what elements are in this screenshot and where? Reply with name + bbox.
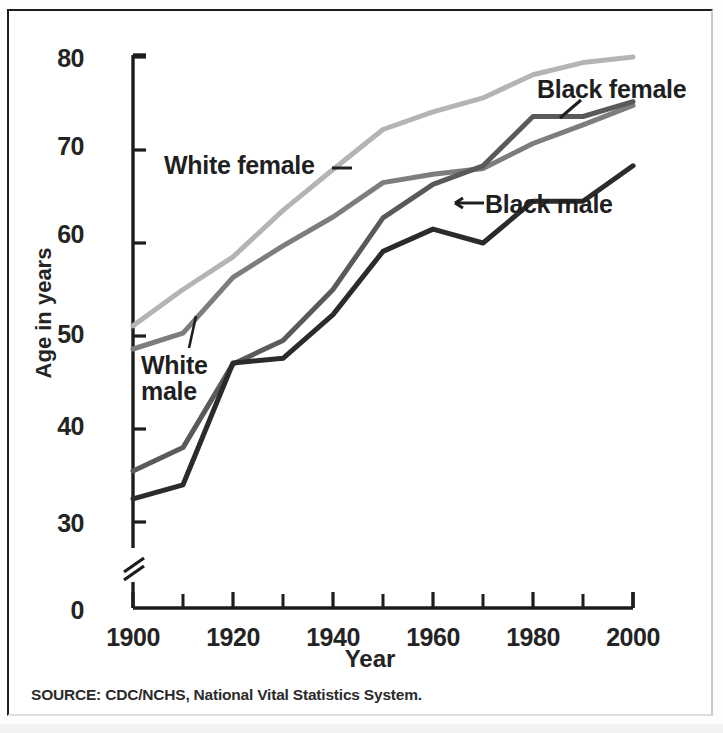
y-tick-label-40: 40	[42, 412, 84, 441]
series-label-black-male: Black male	[485, 190, 613, 219]
series-label-white-male-line1: White	[141, 351, 208, 379]
axes-layer	[124, 55, 633, 608]
x-tick-label-1920: 1920	[183, 623, 283, 652]
series-line-white-male	[133, 105, 633, 349]
x-axis-title: Year	[300, 645, 440, 673]
y-axis-title: Age in years	[31, 233, 57, 393]
x-tick-label-2000: 2000	[583, 623, 683, 652]
series-label-white-female: White female	[164, 151, 315, 180]
annotation-leader-lines	[189, 100, 581, 348]
y-tick-label-0: 0	[42, 596, 84, 625]
series-label-white-male: Whitemale	[141, 353, 208, 404]
source-note: SOURCE: CDC/NCHS, National Vital Statist…	[31, 686, 422, 704]
scan-edge	[0, 724, 723, 733]
series-label-white-male-line2: male	[141, 377, 197, 405]
x-tick-label-1900: 1900	[83, 623, 183, 652]
y-tick-label-30: 30	[42, 509, 84, 538]
series-layer	[133, 57, 633, 499]
y-tick-label-70: 70	[42, 132, 84, 161]
life-expectancy-figure: 80 70 60 50 40 30 0 1900 1920 1940 1960 …	[0, 0, 723, 733]
y-tick-label-80: 80	[42, 44, 84, 73]
x-tick-label-1980: 1980	[483, 623, 583, 652]
series-label-black-female: Black female	[537, 75, 686, 104]
